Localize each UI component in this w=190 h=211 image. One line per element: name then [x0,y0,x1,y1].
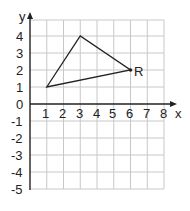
y-axis-arrow-icon [27,12,33,19]
svg-text:6: 6 [126,106,133,121]
svg-text:-1: -1 [11,114,23,129]
coordinate-grid: y x 1 2 3 4 5 6 7 8 4 3 2 1 0 -1 -2 -3 -… [0,0,190,211]
vertex-r-point [129,68,133,72]
triangle-shape [47,36,131,87]
svg-text:0: 0 [16,97,23,112]
svg-text:7: 7 [143,106,150,121]
svg-text:1: 1 [16,80,23,95]
svg-text:-5: -5 [11,182,23,197]
svg-text:4: 4 [16,29,23,44]
svg-text:1: 1 [42,106,49,121]
svg-text:8: 8 [160,106,167,121]
svg-text:3: 3 [16,46,23,61]
y-axis-label: y [19,9,26,24]
svg-text:5: 5 [109,106,116,121]
vertex-r-label: R [134,64,143,79]
svg-text:-2: -2 [11,131,23,146]
svg-text:4: 4 [93,106,100,121]
svg-text:-4: -4 [11,165,23,180]
svg-text:2: 2 [59,106,66,121]
svg-text:3: 3 [76,106,83,121]
x-tick-labels: 1 2 3 4 5 6 7 8 [42,106,167,121]
svg-text:2: 2 [16,63,23,78]
svg-text:-3: -3 [11,148,23,163]
y-tick-labels: 4 3 2 1 0 -1 -2 -3 -4 -5 [11,29,23,197]
x-axis-label: x [175,106,182,121]
